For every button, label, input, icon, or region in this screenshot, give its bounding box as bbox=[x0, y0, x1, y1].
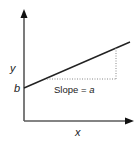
x-axis-arrow-icon bbox=[125, 118, 134, 125]
graph-svg: y b x Slope = a bbox=[0, 0, 139, 142]
slope-label-prefix: Slope = bbox=[54, 84, 89, 95]
x-axis-label: x bbox=[74, 126, 81, 138]
function-line bbox=[24, 42, 130, 88]
slope-label-var: a bbox=[89, 84, 94, 95]
slope-label: Slope = a bbox=[54, 84, 94, 95]
linear-graph-diagram: y b x Slope = a bbox=[0, 0, 139, 142]
intercept-label: b bbox=[14, 82, 20, 94]
y-axis-arrow-icon bbox=[21, 9, 28, 18]
y-axis-label: y bbox=[9, 62, 17, 74]
